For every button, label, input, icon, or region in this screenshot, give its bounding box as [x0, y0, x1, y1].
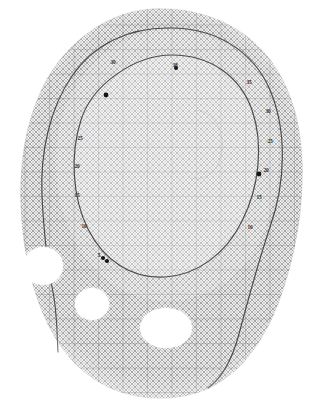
map-canvas: 38 35 30 30 25 25 20 20 15 15 10 10 5: [0, 0, 325, 414]
scan-vignette: [0, 0, 325, 414]
contour-map-figure: 38 35 30 30 25 25 20 20 15 15 10 10 5: [0, 0, 325, 414]
